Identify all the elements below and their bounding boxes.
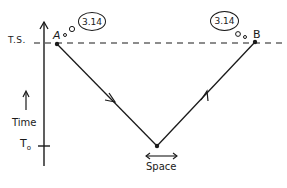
- time-axis-label: Time: [12, 118, 36, 128]
- bubble-a-tail-large: [69, 26, 74, 31]
- point-b-label: B: [253, 29, 261, 40]
- ts-label: T.S.: [8, 36, 26, 45]
- point-a-dot: [55, 42, 59, 46]
- vertex-dot: [155, 144, 159, 148]
- worldline-vertex-to-b: [157, 42, 255, 146]
- t0-label: To: [20, 138, 31, 152]
- t0-main: T: [20, 137, 27, 150]
- point-a-label: A: [53, 30, 61, 41]
- thought-bubble-a: 3.14: [78, 12, 106, 31]
- t0-subscript: o: [27, 144, 31, 152]
- spacetime-diagram: [0, 0, 287, 188]
- bubble-a-tail-small: [64, 34, 67, 37]
- bubble-b-tail-small: [244, 36, 247, 39]
- worldline-a-to-vertex: [57, 44, 157, 146]
- thought-bubble-b: 3.14: [210, 11, 239, 31]
- bubble-b-tail-large: [236, 32, 241, 37]
- space-axis-label: Space: [146, 162, 176, 172]
